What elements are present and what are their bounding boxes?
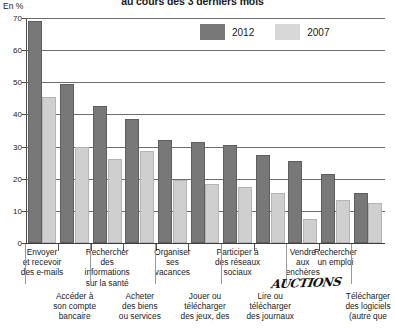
y-tick-label-40: 40	[13, 110, 22, 119]
category-label-4: Organisersesvacances	[138, 247, 206, 278]
category-divider-2	[90, 244, 91, 284]
y-tick-label-50: 50	[13, 78, 22, 87]
category-label-line: Rechercher	[301, 247, 369, 257]
gridline-70	[26, 18, 385, 19]
bar-2012-0	[28, 21, 42, 243]
category-label-line: informations	[73, 267, 141, 277]
category-divider-6	[221, 244, 222, 284]
bar-2012-3	[125, 119, 139, 243]
y-tick-mark-10	[22, 211, 26, 212]
category-label-line: Lire ou	[236, 291, 304, 301]
bar-2012-6	[223, 145, 237, 243]
category-label-line: et recevoir	[8, 257, 76, 267]
bar-2012-8	[288, 161, 302, 243]
bar-2012-7	[256, 155, 270, 243]
category-label-line: un emploi	[301, 257, 369, 267]
bar-2007-7	[271, 193, 285, 243]
bar-2007-4	[173, 180, 187, 243]
y-tick-mark-40	[22, 114, 26, 115]
handwritten-annotation: AUCTIONS	[271, 275, 343, 291]
category-label-line: ou services	[106, 311, 174, 321]
category-label-line: des journaux	[236, 311, 304, 321]
category-label-line: Jouer ou	[171, 291, 239, 301]
gridline-60	[26, 50, 385, 51]
bar-2007-5	[205, 184, 219, 243]
category-label-line: bancaire	[41, 311, 109, 321]
category-label-line: (autre que	[334, 311, 395, 321]
bar-2012-9	[321, 174, 335, 243]
category-divider-10	[351, 244, 352, 284]
y-tick-label-30: 30	[13, 142, 22, 151]
category-label-10: Téléchargerdes logiciels(autre que	[334, 291, 395, 322]
bar-2007-10	[368, 203, 382, 243]
y-tick-label-10: 10	[13, 206, 22, 215]
category-label-line: des jeux, des	[171, 311, 239, 321]
category-label-line: des réseaux	[204, 257, 272, 267]
category-label-line: télécharger	[236, 301, 304, 311]
gridline-40	[26, 114, 385, 115]
chart-title: au cours des 3 derniers mois	[0, 0, 385, 7]
category-label-line: des biens	[106, 301, 174, 311]
category-label-line: des logiciels	[334, 301, 395, 311]
bar-2007-3	[140, 151, 154, 243]
category-label-9: Rechercherun emploi	[301, 247, 369, 267]
y-tick-mark-70	[22, 18, 26, 19]
category-label-7: Lire outéléchargerdes journaux	[236, 291, 304, 322]
category-label-2: Rechercherdesinformationssur la santé	[73, 247, 141, 288]
bar-2012-10	[354, 193, 368, 243]
category-label-line: son compte	[41, 301, 109, 311]
y-tick-label-20: 20	[13, 174, 22, 183]
bar-2012-2	[93, 106, 107, 243]
category-label-line: des e-mails	[8, 267, 76, 277]
plot-area: 010203040506070	[26, 18, 385, 243]
category-label-line: ses	[138, 257, 206, 267]
y-tick-label-60: 60	[13, 46, 22, 55]
bar-2007-9	[336, 200, 350, 243]
y-tick-mark-30	[22, 147, 26, 148]
bar-2007-0	[42, 97, 56, 243]
category-label-3: Acheterdes biensou services	[106, 291, 174, 322]
y-tick-mark-50	[22, 82, 26, 83]
category-label-line: sociaux	[204, 267, 272, 277]
bar-2012-1	[60, 84, 74, 243]
y-tick-mark-60	[22, 50, 26, 51]
bar-2007-8	[303, 219, 317, 243]
y-tick-mark-20	[22, 179, 26, 180]
bar-2007-2	[108, 159, 122, 243]
category-label-5: Jouer outéléchargerdes jeux, des	[171, 291, 239, 322]
category-label-line: Envoyer	[8, 247, 76, 257]
bar-2012-5	[191, 142, 205, 243]
category-label-line: télécharger	[171, 301, 239, 311]
category-label-1: Accéder àson comptebancaire	[41, 291, 109, 322]
y-tick-label-70: 70	[13, 14, 22, 23]
category-label-line: vacances	[138, 267, 206, 277]
category-divider-4	[155, 244, 156, 284]
category-label-line: Acheter	[106, 291, 174, 301]
bar-2007-6	[238, 187, 252, 243]
category-label-6: Participer àdes réseauxsociaux	[204, 247, 272, 278]
gridline-50	[26, 82, 385, 83]
category-divider-0	[25, 244, 26, 284]
y-axis-unit-label: En %	[3, 1, 23, 11]
category-label-line: des	[73, 257, 141, 267]
bar-2007-1	[75, 147, 89, 243]
category-label-line: Organiser	[138, 247, 206, 257]
category-label-line: Accéder à	[41, 291, 109, 301]
category-label-line: sur la santé	[73, 278, 141, 288]
category-label-0: Envoyeret recevoirdes e-mails	[8, 247, 76, 278]
category-label-line: Télécharger	[334, 291, 395, 301]
category-label-line: Participer à	[204, 247, 272, 257]
bar-2012-4	[158, 140, 172, 243]
category-label-line: Rechercher	[73, 247, 141, 257]
